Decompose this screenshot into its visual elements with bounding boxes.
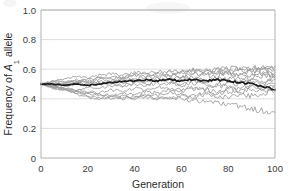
y-tick-label: 0.4 bbox=[23, 93, 36, 104]
y-tick-label: 0.8 bbox=[23, 34, 36, 45]
y-tick-label: 0.6 bbox=[23, 64, 36, 75]
x-tick-label: 60 bbox=[176, 163, 187, 174]
scan-artifact-2 bbox=[146, 2, 190, 14]
x-tick-label: 0 bbox=[38, 163, 43, 174]
x-axis-title: Generation bbox=[132, 178, 184, 190]
x-tick-label: 20 bbox=[83, 163, 94, 174]
genetic-drift-chart: 00.20.40.60.81.0 020406080100 Generation… bbox=[0, 0, 289, 191]
y-tick-label: 1.0 bbox=[23, 5, 36, 16]
y-tick-label: 0 bbox=[31, 153, 36, 164]
x-tick-label: 80 bbox=[223, 163, 234, 174]
x-tick-label: 40 bbox=[129, 163, 140, 174]
y-tick-label: 0.2 bbox=[23, 123, 36, 134]
x-tick-label: 100 bbox=[267, 163, 283, 174]
